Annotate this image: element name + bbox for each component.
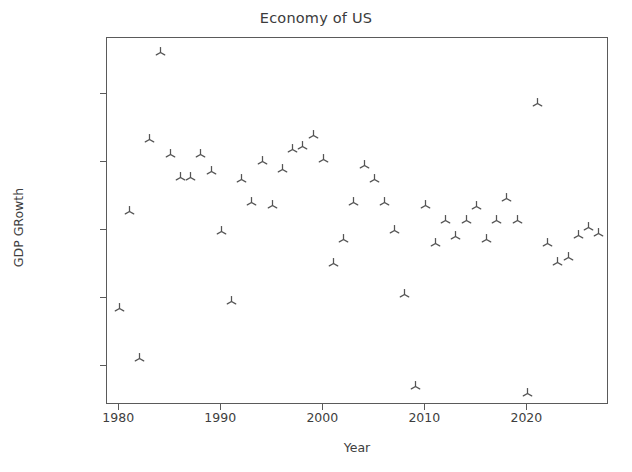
scatter-point xyxy=(563,252,574,263)
scatter-point xyxy=(359,160,370,171)
scatter-point xyxy=(450,231,461,242)
scatter-point xyxy=(379,197,390,208)
scatter-point xyxy=(165,149,176,160)
scatter-point xyxy=(348,197,359,208)
scatter-point xyxy=(267,200,278,211)
x-tick-mark xyxy=(424,404,425,410)
scatter-point xyxy=(410,381,421,392)
scatter-point xyxy=(124,206,135,217)
scatter-point xyxy=(542,238,553,249)
scatter-point xyxy=(308,130,319,141)
scatter-points-layer xyxy=(107,38,607,403)
scatter-point xyxy=(236,174,247,185)
scatter-point xyxy=(246,197,257,208)
scatter-point xyxy=(552,257,563,268)
x-tick-mark xyxy=(220,404,221,410)
y-tick-mark xyxy=(100,365,106,366)
y-tick-mark xyxy=(100,297,106,298)
y-tick-mark xyxy=(100,161,106,162)
scatter-point xyxy=(185,172,196,183)
scatter-point xyxy=(583,222,594,233)
scatter-point xyxy=(287,144,298,155)
scatter-point xyxy=(175,172,186,183)
x-tick-label: 1990 xyxy=(204,410,236,425)
chart-title: Economy of US xyxy=(0,10,632,26)
scatter-point xyxy=(144,134,155,145)
scatter-point xyxy=(399,289,410,300)
scatter-point xyxy=(461,215,472,226)
x-tick-label: 2010 xyxy=(408,410,440,425)
plot-axes-frame xyxy=(106,37,608,404)
scatter-point xyxy=(420,200,431,211)
x-axis-label: Year xyxy=(106,440,608,455)
x-tick-mark xyxy=(118,404,119,410)
scatter-point xyxy=(277,164,288,175)
scatter-point xyxy=(501,193,512,204)
scatter-point xyxy=(297,141,308,152)
y-tick-mark xyxy=(100,93,106,94)
scatter-point xyxy=(257,156,268,167)
scatter-point xyxy=(369,174,380,185)
y-axis-label: GDP GRowth xyxy=(11,148,26,308)
x-tick-label: 2000 xyxy=(306,410,338,425)
scatter-point xyxy=(114,303,125,314)
x-tick-mark xyxy=(322,404,323,410)
x-tick-label: 1980 xyxy=(102,410,134,425)
scatter-point xyxy=(471,201,482,212)
scatter-point xyxy=(532,98,543,109)
y-tick-mark xyxy=(100,229,106,230)
figure-canvas: Economy of US −0.020.000.020.040.06 1980… xyxy=(0,0,632,472)
scatter-point xyxy=(440,215,451,226)
scatter-point xyxy=(216,226,227,237)
x-tick-mark xyxy=(526,404,527,410)
scatter-point xyxy=(155,47,166,58)
scatter-point xyxy=(338,234,349,245)
x-tick-label: 2020 xyxy=(510,410,542,425)
scatter-point xyxy=(430,238,441,249)
scatter-point xyxy=(134,353,145,364)
scatter-point xyxy=(481,234,492,245)
scatter-point xyxy=(195,149,206,160)
scatter-point xyxy=(318,154,329,165)
scatter-point xyxy=(491,215,502,226)
scatter-point xyxy=(226,296,237,307)
scatter-point xyxy=(512,215,523,226)
scatter-point xyxy=(593,228,604,239)
scatter-point xyxy=(522,388,533,399)
scatter-point xyxy=(573,230,584,241)
scatter-point xyxy=(389,225,400,236)
scatter-point xyxy=(328,258,339,269)
scatter-point xyxy=(206,166,217,177)
